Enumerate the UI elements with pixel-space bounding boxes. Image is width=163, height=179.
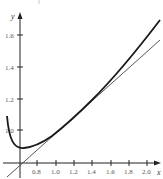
x-tick-1.0: 1.0: [51, 168, 60, 176]
x-ticks: 0.8 1.0 1.2 1.4 1.6 1.8 2.0: [32, 160, 151, 176]
chart: y x 1.6 1.4 1.2 1.0 0.8 1.0 1.2 1.4 1.6 …: [0, 0, 163, 179]
y-tick-1.4: 1.4: [5, 64, 14, 72]
x-tick-1.8: 1.8: [124, 168, 133, 176]
y-axis-label: y: [10, 12, 15, 21]
x-tick-1.6: 1.6: [106, 168, 115, 176]
y-axis-arrow-icon: [18, 12, 23, 19]
y-tick-1.2: 1.2: [5, 96, 14, 104]
x-tick-1.2: 1.2: [69, 168, 78, 176]
x-tick-2.0: 2.0: [142, 168, 151, 176]
x-axis-arrow-icon: [154, 161, 161, 166]
x-axis-label: x: [156, 168, 161, 177]
y-tick-1.6: 1.6: [5, 32, 14, 40]
x-tick-0.8: 0.8: [32, 168, 41, 176]
function-curve: [7, 20, 160, 148]
x-tick-1.4: 1.4: [87, 168, 96, 176]
